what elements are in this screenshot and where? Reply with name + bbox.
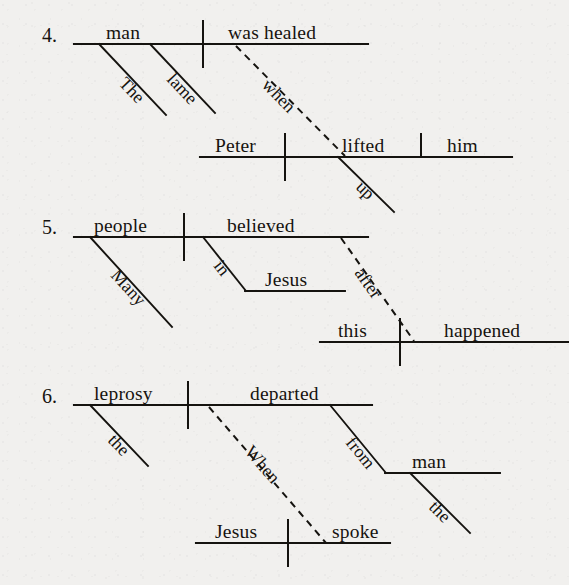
exercise-4-connector-word: when <box>258 75 300 117</box>
exercise-4-modifier-up-word: up <box>352 177 379 204</box>
exercise-4-group: 4. man was healed The lame when Peter li… <box>42 20 512 212</box>
exercise-5-connector-word: after <box>351 264 386 302</box>
exercise-6-sub-subject-word: Jesus <box>215 521 257 542</box>
exercise-5-predicate-word: believed <box>227 215 295 236</box>
exercise-4-subject-word: man <box>106 22 140 43</box>
exercise-4-modifier-the-word: The <box>115 73 149 107</box>
exercise-4-modifier-lame-word: lame <box>163 69 202 108</box>
exercise-6-modifier-the-word: the <box>104 430 134 460</box>
exercise-5-preposition-word: in <box>210 256 234 279</box>
exercise-6-sub-predicate-word: spoke <box>332 521 379 542</box>
exercise-5-modifier-many-word: Many <box>107 265 150 310</box>
exercise-5-number: 5. <box>42 216 57 238</box>
exercise-6-preposition-word: from <box>342 433 380 473</box>
exercise-6-group: 6. leprosy departed the When from man th… <box>42 381 500 567</box>
exercise-6-connector-word: When <box>241 442 284 488</box>
exercise-5-sub-predicate-word: happened <box>444 320 520 341</box>
exercise-4-number: 4. <box>42 24 57 46</box>
sentence-diagram-canvas: 4. man was healed The lame when Peter li… <box>0 0 569 585</box>
exercise-6-number: 6. <box>42 385 57 407</box>
exercise-5-group: 5. people believed Many in Jesus after t… <box>42 213 569 366</box>
exercise-5-preposition-object-word: Jesus <box>265 269 307 290</box>
exercise-6-subject-word: leprosy <box>94 383 153 404</box>
exercise-4-predicate-word: was healed <box>228 22 316 43</box>
exercise-5-sub-subject-word: this <box>338 320 367 341</box>
exercise-4-sub-subject-word: Peter <box>215 135 256 156</box>
exercise-6-preposition-object-word: man <box>412 451 446 472</box>
exercise-6-preposition-object-modifier-word: the <box>425 497 455 527</box>
exercise-4-sub-predicate-word: lifted <box>342 135 384 156</box>
exercise-4-sub-object-word: him <box>447 135 478 156</box>
worksheet-page: 4. man was healed The lame when Peter li… <box>0 0 569 585</box>
exercise-6-predicate-word: departed <box>250 383 319 404</box>
exercise-5-subject-word: people <box>94 215 147 236</box>
